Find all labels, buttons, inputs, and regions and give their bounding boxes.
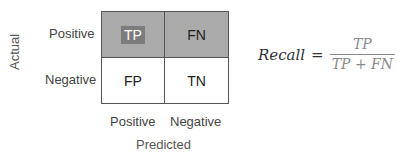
cell-false-positive: FP: [102, 58, 165, 103]
predicted-axis-label: Predicted: [136, 137, 191, 152]
tp-label: TP: [121, 26, 145, 44]
fp-label: FP: [124, 73, 142, 89]
cell-true-positive: TP: [102, 12, 165, 58]
confusion-matrix: TP FN FP TN: [101, 11, 229, 104]
cell-false-negative: FN: [165, 12, 228, 58]
row-label-negative: Negative: [45, 72, 96, 87]
formula-name: Recall: [258, 46, 305, 64]
row-label-positive: Positive: [49, 26, 95, 41]
formula-fraction: TP TP + FN: [330, 36, 395, 73]
actual-axis-label: Actual: [7, 34, 22, 70]
formula-equals: =: [311, 46, 324, 64]
cell-true-negative: TN: [165, 58, 228, 103]
formula-denominator: TP + FN: [330, 56, 395, 73]
tn-label: TN: [187, 73, 206, 89]
col-label-negative: Negative: [170, 114, 221, 129]
formula-numerator: TP: [351, 36, 374, 53]
col-label-positive: Positive: [110, 114, 156, 129]
fraction-bar: [330, 54, 395, 55]
fn-label: FN: [187, 27, 206, 43]
recall-formula: Recall = TP TP + FN: [258, 36, 395, 73]
